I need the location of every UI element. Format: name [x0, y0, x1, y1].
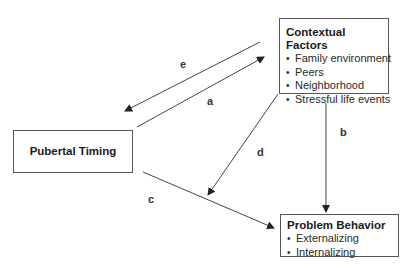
list-item: Stressful life events [286, 93, 388, 107]
edge-label-d: d [257, 146, 264, 158]
arrow-e [125, 42, 260, 111]
list-item: Neighborhood [286, 79, 388, 93]
pubertal-timing-box: Pubertal Timing [13, 130, 133, 173]
contextual-factors-list: Family environment Peers Neighborhood St… [286, 52, 388, 106]
edge-label-b: b [340, 126, 347, 138]
contextual-factors-title: Contextual Factors [286, 26, 388, 52]
problem-behavior-list: Externalizing Internalizing [287, 232, 398, 259]
edge-label-a: a [207, 95, 213, 107]
pubertal-timing-title: Pubertal Timing [30, 145, 117, 158]
problem-behavior-box: Problem Behavior Externalizing Internali… [280, 214, 399, 257]
contextual-factors-box: Contextual Factors Family environment Pe… [279, 18, 389, 94]
list-item: Peers [286, 66, 388, 80]
list-item: Internalizing [287, 246, 398, 260]
arrow-d [208, 94, 278, 195]
arrow-a [137, 57, 264, 127]
list-item: Externalizing [287, 232, 398, 246]
arrow-c [143, 172, 274, 228]
edge-label-e: e [180, 58, 186, 70]
problem-behavior-title: Problem Behavior [287, 219, 398, 232]
edge-label-c: c [148, 193, 154, 205]
diagram: Contextual Factors Family environment Pe… [0, 0, 411, 269]
list-item: Family environment [286, 52, 388, 66]
